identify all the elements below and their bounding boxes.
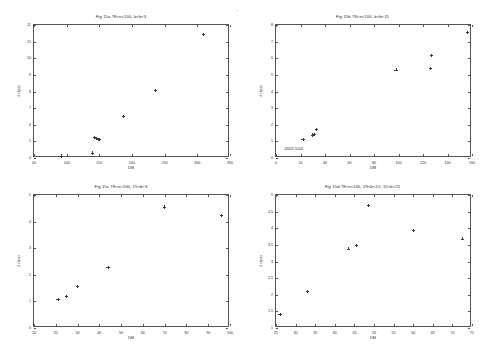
xtick-fig15d	[413, 324, 414, 326]
annotation-pulsar-name-fig15b: J2022-5104	[284, 147, 303, 151]
xtick-top-fig15c	[78, 195, 79, 197]
ytick-label-fig15d: 2.5	[264, 276, 273, 280]
data-point	[96, 138, 99, 141]
ytick-label-fig15b: 1	[264, 139, 273, 143]
data-point	[429, 67, 432, 70]
xtick-fig15d	[276, 324, 277, 326]
xtick-fig15b	[325, 154, 326, 156]
xaxis-label-fig15c: DM	[128, 336, 134, 341]
xtick-top-fig15b	[448, 25, 449, 27]
ytick-label-fig15d: 3.5	[264, 243, 273, 247]
xtick-fig15b	[472, 154, 473, 156]
xtick-top-fig15d	[472, 195, 473, 197]
xtick-fig15c	[208, 324, 209, 326]
data-point	[56, 298, 59, 301]
xtick-fig15b	[448, 154, 449, 156]
ytick-label-fig15a: 12	[22, 23, 31, 27]
xtick-top-fig15b	[301, 25, 302, 27]
ytick-right-fig15d	[468, 212, 470, 213]
ytick-label-fig15a: 5	[22, 139, 31, 143]
data-point	[412, 229, 415, 232]
data-point	[98, 138, 101, 141]
ytick-right-fig15d	[468, 245, 470, 246]
xtick-top-fig15d	[374, 195, 375, 197]
xtick-fig15d	[433, 324, 434, 326]
xtick-label-fig15b: 140	[445, 161, 451, 165]
figure-canvas: Fig 15a 78<n<100, b<b<3 5010015020025030…	[0, 0, 483, 357]
xtick-fig15d	[472, 324, 473, 326]
ytick-fig15b	[276, 141, 278, 142]
xtick-top-fig15d	[354, 195, 355, 197]
xtick-label-fig15b: 80	[372, 161, 376, 165]
ytick-label-fig15d: 5	[264, 193, 273, 197]
data-point	[60, 154, 63, 157]
ytick-label-fig15b: 2	[264, 123, 273, 127]
ytick-fig15d	[276, 311, 278, 312]
xtick-fig15a	[132, 154, 133, 156]
xtick-fig15a	[34, 154, 35, 156]
xtick-fig15c	[186, 324, 187, 326]
ytick-fig15d	[276, 328, 278, 329]
ytick-right-fig15c	[226, 222, 228, 223]
xtick-fig15b	[423, 154, 424, 156]
ytick-fig15d	[276, 245, 278, 246]
xtick-top-fig15c	[56, 195, 57, 197]
xtick-label-fig15b: 60	[348, 161, 352, 165]
ytick-right-fig15b	[468, 108, 470, 109]
xtick-top-fig15a	[132, 25, 133, 27]
ytick-fig15d	[276, 228, 278, 229]
xtick-fig15a	[67, 154, 68, 156]
data-point	[311, 133, 314, 136]
xtick-fig15b	[374, 154, 375, 156]
xtick-fig15c	[121, 324, 122, 326]
xtick-fig15b	[399, 154, 400, 156]
data-point	[394, 68, 397, 71]
xtick-label-fig15a: 200	[129, 161, 135, 165]
ytick-fig15b	[276, 108, 278, 109]
xtick-fig15b	[301, 154, 302, 156]
ytick-right-fig15b	[468, 141, 470, 142]
xtick-fig15d	[296, 324, 297, 326]
ytick-fig15c	[34, 222, 36, 223]
xtick-label-fig15d: 65	[431, 331, 435, 335]
ytick-label-fig15a: 10	[22, 56, 31, 60]
xtick-top-fig15d	[315, 195, 316, 197]
ytick-fig15d	[276, 262, 278, 263]
xtick-label-fig15d: 30	[294, 331, 298, 335]
xtick-label-fig15d: 40	[333, 331, 337, 335]
xtick-fig15a	[230, 154, 231, 156]
ytick-fig15b	[276, 75, 278, 76]
ytick-right-fig15c	[226, 301, 228, 302]
ytick-label-fig15c: 4	[22, 220, 31, 224]
ytick-right-fig15a	[226, 58, 228, 59]
xtick-fig15d	[452, 324, 453, 326]
ytick-fig15b	[276, 158, 278, 159]
xtick-fig15c	[143, 324, 144, 326]
ytick-right-fig15a	[226, 75, 228, 76]
data-point	[430, 54, 433, 57]
xtick-top-fig15b	[472, 25, 473, 27]
xtick-top-fig15b	[350, 25, 351, 27]
data-point	[355, 244, 358, 247]
xtick-label-fig15c: 90	[206, 331, 210, 335]
data-point	[461, 237, 464, 240]
xtick-top-fig15a	[197, 25, 198, 27]
ytick-right-fig15c	[226, 195, 228, 196]
yaxis-label-fig15a: d (kpc)	[17, 85, 22, 97]
ytick-label-fig15a: 6	[22, 123, 31, 127]
ytick-fig15c	[34, 328, 36, 329]
ytick-right-fig15b	[468, 42, 470, 43]
xtick-label-fig15c: 100	[227, 331, 233, 335]
data-point	[367, 204, 370, 207]
xtick-label-fig15d: 55	[392, 331, 396, 335]
xtick-label-fig15b: 100	[396, 161, 402, 165]
ytick-fig15a	[34, 125, 36, 126]
ytick-fig15a	[34, 25, 36, 26]
ytick-label-fig15d: 2	[264, 293, 273, 297]
xtick-fig15d	[374, 324, 375, 326]
data-point	[93, 136, 96, 139]
ytick-label-fig15d: 4	[264, 226, 273, 230]
ytick-right-fig15a	[226, 92, 228, 93]
xaxis-label-fig15b: DM	[370, 166, 376, 171]
ytick-label-fig15c: 5	[22, 193, 31, 197]
